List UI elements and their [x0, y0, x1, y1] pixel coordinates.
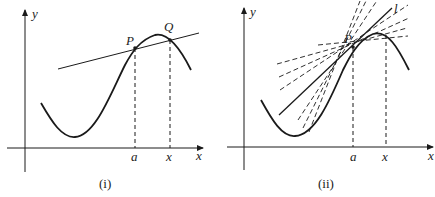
point-p-label: P [343, 31, 352, 46]
x-axis-label: x [195, 148, 202, 163]
panel-ii: y x l P a x (ii) [227, 1, 434, 191]
figure-canvas: y x P Q a x (i) y x l [0, 0, 435, 197]
tick-label-x: x [381, 149, 388, 164]
x-axis-label: x [427, 148, 434, 163]
curve [261, 33, 409, 136]
point-q [168, 38, 172, 42]
panel-i: y x P Q a x (i) [7, 6, 203, 191]
point-q-label: Q [164, 19, 174, 34]
tick-label-x: x [165, 149, 172, 164]
tick-label-a: a [350, 149, 357, 164]
caption-i: (i) [99, 176, 111, 191]
caption-ii: (ii) [318, 176, 334, 191]
y-axis-label: y [248, 4, 256, 19]
secant-lines-dashed [277, 1, 409, 132]
y-axis-label: y [30, 6, 38, 21]
tick-label-a: a [131, 149, 138, 164]
point-p-label: P [125, 33, 134, 48]
curve [41, 35, 191, 137]
